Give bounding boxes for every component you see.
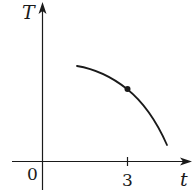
y-axis-label: T [22, 1, 36, 23]
x-axis-label: t [180, 168, 188, 190]
point-at-3 [125, 86, 131, 92]
x-tick-label-3: 3 [122, 170, 133, 190]
curve [77, 66, 167, 145]
origin-label: 0 [27, 164, 38, 184]
graph: T t 0 3 [0, 0, 194, 195]
